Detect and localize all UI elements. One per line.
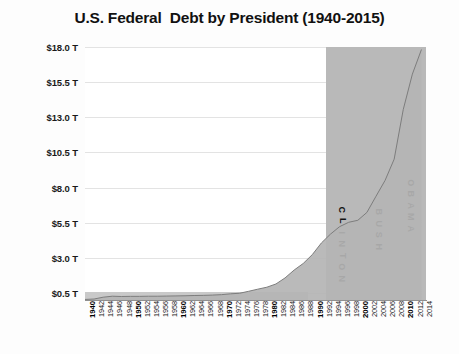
x-axis-tick-label: 1954	[152, 301, 161, 317]
x-axis-tick-label: 1998	[352, 301, 361, 317]
x-axis-tick-label: 1970	[225, 301, 234, 318]
debt-area-series	[85, 47, 426, 300]
x-axis-tick-label: 2004	[379, 301, 388, 317]
x-axis-tick-label: 1942	[97, 301, 106, 317]
y-axis-tick-label: $18.0 T	[46, 42, 78, 53]
x-axis-tick-label: 1982	[279, 301, 288, 317]
x-axis-tick-label: 2008	[397, 301, 406, 317]
x-axis-tick-label: 1976	[252, 301, 261, 317]
x-axis-tick-label: 1996	[343, 301, 352, 317]
x-axis-tick-label: 1956	[161, 301, 170, 317]
x-axis-tick-label: 1984	[288, 301, 297, 317]
x-axis-tick-label: 1968	[216, 301, 225, 317]
x-axis-tick-label: 1992	[325, 301, 334, 317]
x-axis-tick-label: 1946	[115, 301, 124, 317]
x-axis-tick-label: 1962	[188, 301, 197, 317]
x-axis-tick-label: 2002	[370, 301, 379, 317]
x-axis-tick-label: 1990	[316, 301, 325, 318]
x-axis-tick-label: 1958	[170, 301, 179, 317]
x-axis-tick-label: 2000	[361, 301, 370, 318]
chart-title: U.S. Federal Debt by President (1940-201…	[0, 9, 459, 27]
x-axis: 1940194219441946194819501952195419561958…	[85, 301, 426, 354]
x-axis-tick-label: 1964	[197, 301, 206, 317]
x-axis-tick-label: 1972	[234, 301, 243, 317]
x-axis-tick-label: 2014	[425, 301, 434, 317]
x-axis-tick-label: 1950	[134, 301, 143, 318]
x-axis-tick-label: 1978	[261, 301, 270, 317]
area-fill	[85, 50, 421, 300]
y-axis-tick-label: $8.0 T	[52, 182, 78, 193]
x-axis-tick-label: 1994	[334, 301, 343, 317]
y-axis-tick-label: $3.0 T	[52, 252, 78, 263]
y-axis-tick-label: $15.5 T	[46, 77, 78, 88]
x-axis-tick-label: 1988	[306, 301, 315, 317]
x-axis-tick-label: 1980	[270, 301, 279, 318]
x-axis-tick-label: 1986	[297, 301, 306, 317]
x-axis-tick-label: 1974	[243, 301, 252, 317]
plot-area: CLINTONBUSHOBAMA	[85, 47, 426, 300]
x-axis-tick-label: 2010	[406, 301, 415, 318]
y-axis-tick-label: $10.5 T	[46, 147, 78, 158]
x-axis-tick-label: 2012	[416, 301, 425, 317]
x-axis-tick-label: 1960	[179, 301, 188, 318]
x-axis-tick-label: 2006	[388, 301, 397, 317]
y-axis-tick-label: $5.5 T	[52, 217, 78, 228]
y-axis: $18.0 T$15.5 T$13.0 T$10.5 T$8.0 T$5.5 T…	[0, 47, 84, 301]
x-axis-tick-label: 1966	[206, 301, 215, 317]
chart-canvas: U.S. Federal Debt by President (1940-201…	[0, 0, 459, 354]
y-axis-tick-label: $0.5 T	[52, 287, 78, 298]
x-axis-tick-label: 1948	[125, 301, 134, 317]
y-axis-tick-label: $13.0 T	[46, 112, 78, 123]
x-axis-tick-label: 1952	[143, 301, 152, 317]
x-axis-tick-label: 1940	[88, 301, 97, 318]
